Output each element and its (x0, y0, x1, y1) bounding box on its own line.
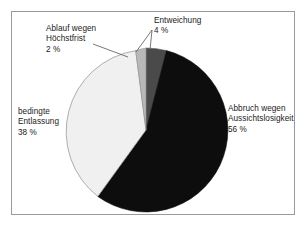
slice-label-hoechstfrist: Ablauf wegen Höchstfrist 2 % (46, 24, 96, 55)
slice-label-abbruch-name-line1: Abbruch wegen (228, 104, 294, 114)
slice-label-bedingte-value: 38 % (18, 128, 59, 138)
slice-label-hoechstfrist-name-line2: Höchstfrist (46, 34, 96, 44)
slice-label-bedingte-entlassung: bedingte Entlassung 38 % (18, 107, 59, 138)
slice-label-bedingte-name-line2: Entlassung (18, 117, 59, 127)
slice-label-abbruch-name-line2: Aussichtslosigkeit (228, 114, 294, 124)
pie-chart-screenshot: Entweichung 4 % Ablauf wegen Höchstfrist… (0, 0, 308, 228)
slice-label-abbruch-value: 56 % (228, 125, 294, 135)
leader-line-hoechstfrist (93, 44, 128, 57)
slice-label-entweichung-name: Entweichung (154, 16, 201, 26)
slice-label-abbruch: Abbruch wegen Aussichtslosigkeit 56 % (228, 104, 294, 135)
slice-label-bedingte-name-line1: bedingte (18, 107, 59, 117)
slice-label-entweichung-value: 4 % (154, 26, 201, 36)
slice-label-hoechstfrist-value: 2 % (46, 45, 96, 55)
slice-label-entweichung: Entweichung 4 % (154, 16, 201, 37)
slice-label-hoechstfrist-name-line1: Ablauf wegen (46, 24, 96, 34)
